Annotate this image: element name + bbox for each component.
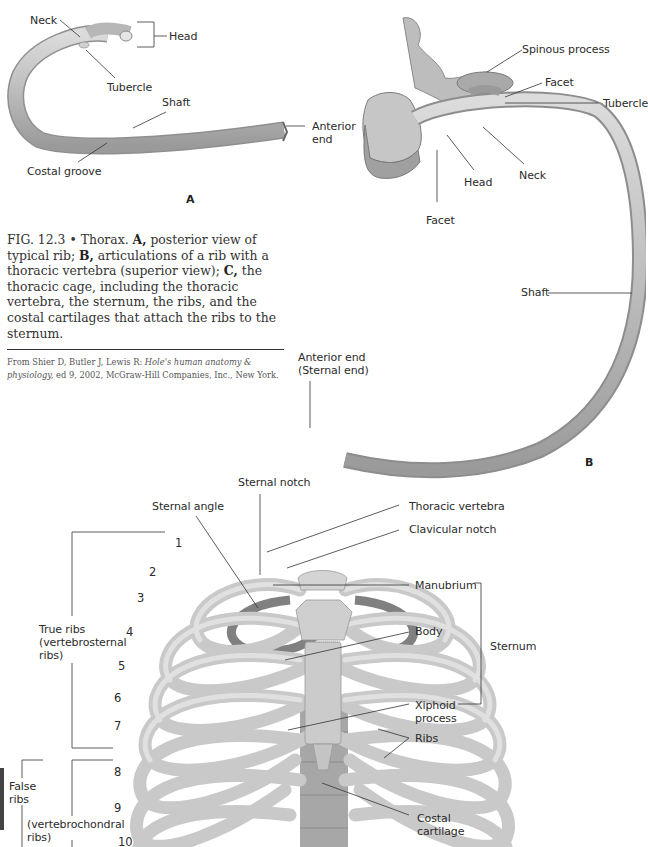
- label-b-tubercle: Tubercle: [603, 97, 648, 110]
- label-c-true-ribs-line2: (vertebrosternal: [39, 636, 126, 649]
- label-a-anterior-end-line2: end: [312, 133, 332, 146]
- caption-bullet: •: [69, 232, 76, 247]
- panel-letter-b: B: [585, 456, 593, 469]
- label-c-costal-line1: Costal: [417, 812, 451, 825]
- rib-number-2: 2: [149, 565, 156, 579]
- rib-number-9: 9: [114, 801, 121, 815]
- label-b-neck: Neck: [519, 169, 546, 182]
- page-edge-marker: [0, 768, 4, 830]
- source-suffix: ed 9, 2002, McGraw-Hill Companies, Inc.,…: [53, 370, 278, 380]
- label-c-true-ribs-line3: ribs): [39, 649, 63, 662]
- caption-letter-b: B,: [79, 248, 94, 263]
- label-c-vc-line1: (vertebrochondral: [27, 818, 125, 831]
- label-c-vertebrochondral: (vertebrochondralribs): [27, 818, 125, 844]
- caption-letter-c: C,: [224, 263, 238, 278]
- rib-number-1: 1: [175, 536, 182, 550]
- label-c-sternum: Sternum: [490, 640, 536, 653]
- label-c-thoracic-vertebra: Thoracic vertebra: [409, 500, 505, 513]
- label-c-costal-cartilage: Costalcartilage: [417, 812, 464, 838]
- label-c-sternal-angle: Sternal angle: [152, 500, 224, 513]
- label-c-true-ribs-line1: True ribs: [39, 623, 85, 636]
- caption-divider: [7, 349, 284, 350]
- label-a-costal-groove: Costal groove: [27, 165, 101, 178]
- label-b-head: Head: [464, 176, 492, 189]
- rib-number-3: 3: [137, 591, 144, 605]
- label-c-false-ribs-line1: False: [9, 780, 36, 793]
- label-c-ribs: Ribs: [415, 732, 438, 745]
- figure-number: FIG. 12.3: [7, 232, 65, 247]
- label-c-vc-line2: ribs): [27, 831, 51, 844]
- source-prefix: From Shier D, Butler J, Lewis R:: [7, 357, 145, 367]
- rib-number-4: 4: [126, 625, 133, 639]
- panel-letter-a: A: [186, 193, 195, 206]
- label-a-tubercle: Tubercle: [107, 81, 152, 94]
- rib-number-10: 10: [118, 835, 133, 847]
- label-c-clavicular-notch: Clavicular notch: [409, 523, 496, 536]
- rib-number-8: 8: [114, 765, 121, 779]
- label-b-facet-top: Facet: [545, 76, 574, 89]
- rib-number-7: 7: [114, 719, 121, 733]
- label-c-xiphoid-process: Xiphoidprocess: [415, 699, 457, 725]
- label-a-anterior-end: Anteriorend: [312, 120, 356, 146]
- label-c-xiphoid-line1: Xiphoid: [415, 699, 456, 712]
- panel-b-vertebra: [345, 18, 640, 471]
- rib-number-5: 5: [118, 659, 125, 673]
- label-c-manubrium: Manubrium: [415, 579, 477, 592]
- label-c-false-ribs: Falseribs: [9, 780, 36, 806]
- label-b-facet-bottom: Facet: [426, 214, 455, 227]
- label-c-false-ribs-line2: ribs: [9, 793, 29, 806]
- caption-letter-a: A,: [133, 232, 147, 247]
- label-b-anterior-end-line1: Anterior end: [298, 351, 365, 364]
- label-b-shaft: Shaft: [521, 286, 549, 299]
- rib-number-6: 6: [114, 691, 121, 705]
- label-c-sternal-notch: Sternal notch: [238, 476, 310, 489]
- label-c-xiphoid-line2: process: [415, 712, 457, 725]
- label-c-body: Body: [415, 625, 442, 638]
- label-a-neck: Neck: [30, 14, 57, 27]
- label-c-costal-line2: cartilage: [417, 825, 464, 838]
- caption-text-0: Thorax.: [81, 232, 133, 247]
- label-c-true-ribs: True ribs(vertebrosternalribs): [39, 623, 126, 662]
- label-a-anterior-end-line1: Anterior: [312, 120, 356, 133]
- label-b-anterior-end: Anterior end(Sternal end): [298, 351, 369, 377]
- label-a-shaft: Shaft: [162, 96, 190, 109]
- source-citation: From Shier D, Butler J, Lewis R: Hole's …: [7, 356, 292, 381]
- label-b-spinous-process: Spinous process: [522, 43, 610, 56]
- label-b-anterior-end-line2: (Sternal end): [298, 364, 369, 377]
- label-a-head: Head: [169, 30, 197, 43]
- figure-caption: FIG. 12.3 • Thorax. A, posterior view of…: [7, 232, 285, 341]
